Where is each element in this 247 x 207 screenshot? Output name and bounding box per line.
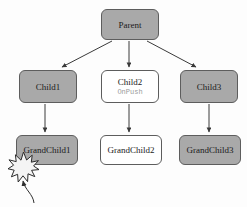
node-child2[interactable]: Child2 OnPush: [101, 70, 159, 103]
node-child1-label: Child1: [36, 82, 61, 92]
node-grandchild3[interactable]: GrandChild3: [179, 135, 241, 165]
component-tree-diagram: Parent Child1 Child2 OnPush Child3 Grand…: [0, 0, 247, 207]
node-grandchild2[interactable]: GrandChild2: [100, 135, 162, 165]
burst-pointer-arrow: [23, 181, 34, 203]
node-child3[interactable]: Child3: [180, 70, 238, 103]
event-burst-icon: [8, 152, 39, 183]
edge-parent-child3: [147, 41, 196, 67]
node-parent[interactable]: Parent: [101, 9, 159, 40]
node-child2-label: Child2: [118, 77, 143, 87]
node-grandchild2-label: GrandChild2: [108, 145, 155, 155]
node-parent-label: Parent: [119, 20, 142, 30]
node-grandchild3-label: GrandChild3: [187, 145, 234, 155]
node-child2-strategy-label: OnPush: [117, 88, 142, 96]
node-child1[interactable]: Child1: [19, 70, 77, 103]
edge-parent-child1: [62, 41, 112, 67]
node-child3-label: Child3: [197, 82, 222, 92]
